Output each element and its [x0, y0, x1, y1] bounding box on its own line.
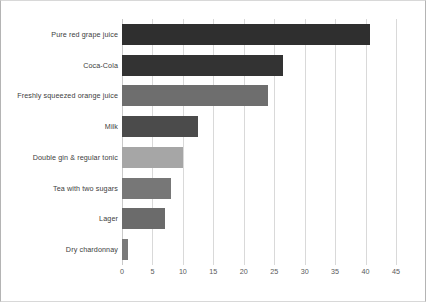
bar-chart: Pure red grape juiceCoca-ColaFreshly squ…	[1, 1, 425, 301]
bar-row	[122, 234, 396, 265]
category-label: Lager	[1, 204, 118, 235]
value-tick-label: 20	[240, 267, 248, 276]
bar	[122, 239, 128, 260]
value-tick-label: 25	[270, 267, 278, 276]
gridline	[396, 19, 397, 265]
plot-area	[122, 19, 396, 265]
category-label: Coca-Cola	[1, 50, 118, 81]
bar-row	[122, 204, 396, 235]
value-tick-label: 30	[301, 267, 309, 276]
value-tick-label: 40	[362, 267, 370, 276]
bar	[122, 178, 171, 199]
bar	[122, 85, 268, 106]
category-label: Tea with two sugars	[1, 173, 118, 204]
category-label: Freshly squeezed orange juice	[1, 81, 118, 112]
value-tick-label: 45	[392, 267, 400, 276]
bar	[122, 24, 370, 45]
bar	[122, 55, 283, 76]
bar-row	[122, 142, 396, 173]
category-label: Dry chardonnay	[1, 234, 118, 265]
bar	[122, 116, 198, 137]
bar-series	[122, 19, 396, 265]
chart-frame: Pure red grape juiceCoca-ColaFreshly squ…	[0, 0, 426, 302]
bar-row	[122, 81, 396, 112]
value-tick-label: 15	[209, 267, 217, 276]
bar-row	[122, 173, 396, 204]
bar-row	[122, 19, 396, 50]
category-label: Double gin & regular tonic	[1, 142, 118, 173]
category-label: Milk	[1, 111, 118, 142]
value-tick-label: 0	[120, 267, 124, 276]
bar	[122, 208, 165, 229]
category-axis: Pure red grape juiceCoca-ColaFreshly squ…	[1, 19, 118, 265]
value-axis: 051015202530354045	[1, 267, 425, 283]
value-tick-label: 5	[150, 267, 154, 276]
value-tick-label: 10	[179, 267, 187, 276]
bar-row	[122, 111, 396, 142]
bar-row	[122, 50, 396, 81]
bar	[122, 147, 183, 168]
category-label: Pure red grape juice	[1, 19, 118, 50]
value-tick-label: 35	[331, 267, 339, 276]
